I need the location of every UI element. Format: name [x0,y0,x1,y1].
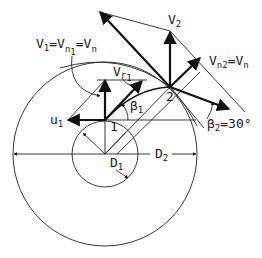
label-d1: D1 [110,155,123,172]
label-vn2: Vn2=Vn [209,53,249,70]
inlet-diagonal-ext [105,132,126,154]
label-point2: 2 [166,89,174,104]
label-point1: 1 [110,119,118,134]
label-v2: V2 [168,12,181,29]
label-beta2: β2=30° [207,116,252,133]
outlet-top-line [100,12,170,31]
beta1-arc [122,104,128,120]
label-u1: u1 [50,112,63,129]
label-beta1: β1 [130,98,143,115]
label-d2: D2 [155,146,168,163]
velocity-triangle-diagram: V1=Vn1=Vn Vr1 u1 β1 1 2 V2 Vn2=Vn β2=30°… [0,0,262,258]
label-v1: V1=Vn1=Vn [36,36,97,57]
w2-vector [100,12,170,87]
vn2-vector [170,58,200,87]
inlet-parallelogram-side [68,80,105,120]
d1-radius-arrow-a [83,133,105,154]
